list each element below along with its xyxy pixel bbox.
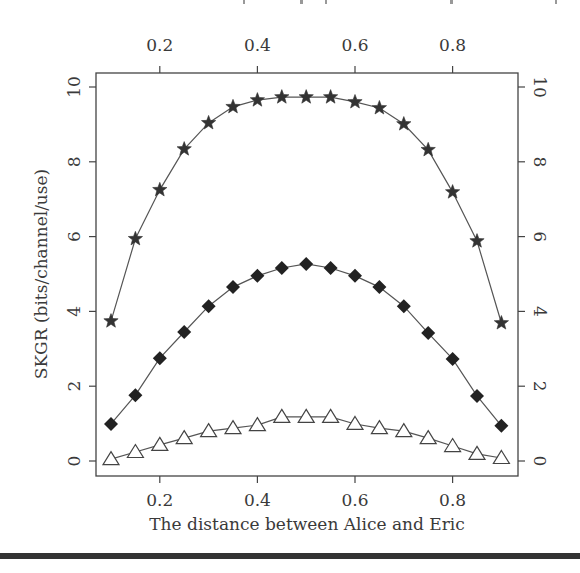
y-tick-label-right: 2 — [530, 381, 550, 392]
star-marker-icon — [250, 93, 264, 107]
data-series — [103, 90, 509, 465]
star-marker-icon — [299, 90, 313, 104]
y-tick-label-left: 0 — [64, 456, 84, 467]
x-tick-label-top: 0.2 — [146, 35, 173, 55]
star-marker-icon — [104, 314, 118, 328]
triangle-marker-icon — [298, 409, 314, 422]
diamond-marker-icon — [299, 257, 313, 271]
y-tick-label-right: 0 — [530, 456, 550, 467]
star-marker-icon — [494, 315, 508, 329]
triangle-marker-icon — [103, 452, 119, 465]
star-marker-icon — [226, 99, 240, 113]
y-tick-label-right: 10 — [530, 76, 550, 98]
diamond-marker-icon — [348, 269, 362, 283]
y-tick-label-right: 4 — [530, 306, 550, 317]
diamond-marker-icon — [372, 280, 386, 294]
x-tick-label-bottom: 0.4 — [244, 490, 271, 510]
star-marker-icon — [128, 231, 142, 245]
star-marker-icon — [372, 100, 386, 114]
diamond-marker-icon — [250, 269, 264, 283]
diamond-marker-icon — [324, 261, 338, 275]
y-tick-label-left: 6 — [64, 231, 84, 242]
triangle-marker-icon — [249, 418, 265, 431]
star-marker-icon — [470, 234, 484, 248]
header-descender-fragment — [243, 0, 245, 4]
star-marker-icon — [397, 117, 411, 131]
series-line — [111, 97, 501, 323]
triangle-marker-icon — [420, 431, 436, 444]
x-tick-label-bottom: 0.8 — [439, 490, 466, 510]
diamond-marker-icon — [275, 261, 289, 275]
axes: 0.20.20.40.40.60.60.80.800224466881010 — [64, 35, 550, 510]
x-tick-label-top: 0.6 — [341, 35, 368, 55]
series-line — [111, 264, 501, 426]
triangle-marker-icon — [127, 445, 143, 458]
x-tick-label-top: 0.4 — [244, 35, 271, 55]
triangle-marker-icon — [445, 439, 461, 452]
star-marker-icon — [445, 185, 459, 199]
triangle-marker-icon — [274, 409, 290, 422]
star-marker-icon — [275, 90, 289, 104]
star-marker-icon — [348, 94, 362, 108]
y-tick-label-right: 6 — [530, 231, 550, 242]
y-tick-label-left: 2 — [64, 381, 84, 392]
x-tick-label-bottom: 0.2 — [146, 490, 173, 510]
header-descender-fragment — [325, 0, 327, 4]
x-tick-label-bottom: 0.6 — [341, 490, 368, 510]
y-tick-label-left: 8 — [64, 156, 84, 167]
chart-canvas: 0.20.20.40.40.60.60.80.800224466881010 T… — [0, 0, 580, 573]
header-descender-fragment — [450, 0, 453, 4]
star-marker-icon — [153, 182, 167, 196]
diamond-marker-icon — [226, 280, 240, 294]
x-axis-title: The distance between Alice and Eric — [149, 514, 465, 534]
y-axis-title: SKGR (bits/channel/use) — [31, 169, 51, 379]
triangle-marker-icon — [176, 431, 192, 444]
series-line — [111, 417, 501, 459]
diamond-marker-icon — [494, 419, 508, 433]
y-tick-label-left: 10 — [64, 76, 84, 98]
diamond-marker-icon — [470, 389, 484, 403]
filled-diamond-series — [104, 257, 508, 433]
star-marker-icon — [201, 115, 215, 129]
header-descender-fragment — [555, 0, 557, 4]
triangle-marker-icon — [469, 446, 485, 459]
x-tick-label-top: 0.8 — [439, 35, 466, 55]
cut-off-header-fragment — [243, 0, 557, 4]
y-tick-label-right: 8 — [530, 156, 550, 167]
triangle-marker-icon — [347, 416, 363, 429]
star-marker-icon — [323, 90, 337, 104]
y-tick-label-left: 4 — [64, 306, 84, 317]
triangle-marker-icon — [323, 409, 339, 422]
open-triangle-series — [103, 409, 509, 464]
page-bottom-rule — [0, 553, 580, 559]
header-descender-fragment — [300, 0, 303, 4]
star-series — [104, 90, 509, 329]
